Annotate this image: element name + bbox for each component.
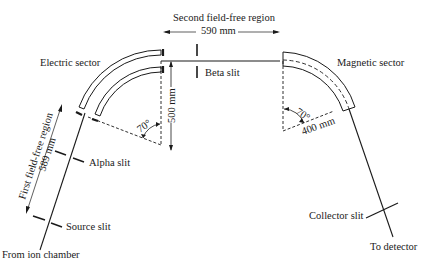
label-source-slit: Source slit [66,221,111,232]
label-alpha-slit: Alpha slit [89,157,130,168]
label-second-region: Second field-free region [173,12,276,23]
label-collector-slit: Collector slit [309,210,364,221]
label-second-region-length: 590 mm [201,25,236,36]
label-to-detector: To detector [370,241,418,252]
label-electric-angle: 70° [135,117,153,134]
label-magnetic-angle: 70° [294,106,312,123]
label-magnetic-sector: Magnetic sector [337,57,405,68]
label-electric-sector: Electric sector [40,57,101,68]
source-slit [33,216,62,227]
label-from-ion-chamber: From ion chamber [2,249,80,260]
label-electric-radius: 500 mm [166,88,177,123]
mass-spectrometer-diagram: Electric sector Second field-free region… [0,0,430,266]
label-beta-slit: Beta slit [205,67,240,78]
